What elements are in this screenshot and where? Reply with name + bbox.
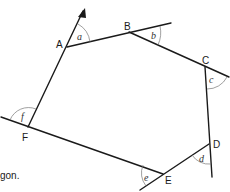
angle-label-a: a <box>77 31 82 42</box>
angle-label-e: e <box>144 172 149 183</box>
vertex-label-a: A <box>56 39 63 50</box>
arrowhead-icon <box>78 8 86 18</box>
vertex-label-f: F <box>22 132 28 143</box>
angle-label-b: b <box>151 30 156 41</box>
vertex-label-d: D <box>213 139 220 150</box>
edge-d-e-extended <box>140 144 209 190</box>
edge-b-c-extended <box>129 32 229 77</box>
angle-label-c: c <box>209 74 214 85</box>
angle-label-f: f <box>21 111 25 122</box>
hexagon-diagram: A B C D E F a b c d e f <box>0 0 230 192</box>
angle-label-d: d <box>199 153 205 164</box>
angle-arc-b <box>158 26 161 45</box>
edge-f-a-extended <box>28 11 83 127</box>
edge-e-f-extended <box>1 117 163 174</box>
caption-text: gon. <box>0 170 19 181</box>
vertex-label-b: B <box>124 21 131 32</box>
vertex-label-c: C <box>202 55 209 66</box>
vertex-label-e: E <box>165 175 172 186</box>
